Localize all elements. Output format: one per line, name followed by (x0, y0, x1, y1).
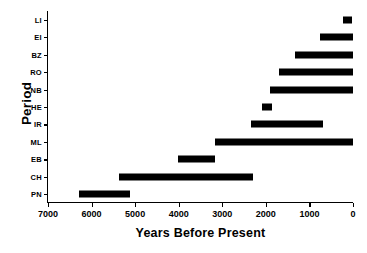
x-axis-label-6000: 6000 (82, 209, 102, 219)
y-axis-tick-li (44, 20, 48, 21)
x-axis-label-4000: 4000 (169, 209, 189, 219)
x-axis-label-2000: 2000 (256, 209, 276, 219)
bar-eb (178, 156, 215, 163)
x-axis-tick-0 (353, 203, 354, 207)
y-axis-label-bz: BZ (31, 50, 42, 59)
bar-he (262, 104, 272, 111)
x-axis-label-1000: 1000 (299, 209, 319, 219)
y-axis-label-ro: RO (30, 68, 42, 77)
x-axis-tick-7000 (48, 203, 49, 207)
y-axis-tick-nb (44, 90, 48, 91)
x-axis-tick-4000 (179, 203, 180, 207)
y-axis-label-ir: IR (34, 120, 42, 129)
y-axis-tick-ml (44, 142, 48, 143)
y-axis-label-ei: EI (34, 33, 42, 42)
x-axis-tick-2000 (266, 203, 267, 207)
x-axis-tick-6000 (92, 203, 93, 207)
x-axis-tick-5000 (135, 203, 136, 207)
bar-ro (279, 69, 353, 76)
x-axis-label-3000: 3000 (212, 209, 232, 219)
plot-area: LIEIBZRONBHEIRMLEBCHPN700060005000400030… (48, 11, 353, 203)
y-axis-tick-ch (44, 177, 48, 178)
y-axis-tick-eb (44, 159, 48, 160)
y-axis-label-ch: CH (31, 172, 42, 181)
bar-bz (295, 51, 353, 58)
x-axis-tick-1000 (309, 203, 310, 207)
y-axis-label-nb: NB (31, 85, 42, 94)
y-axis-label-ml: ML (31, 137, 42, 146)
bar-ml (215, 138, 353, 145)
x-axis-label-5000: 5000 (125, 209, 145, 219)
y-axis-tick-ro (44, 72, 48, 73)
y-axis-tick-ir (44, 124, 48, 125)
bar-nb (270, 86, 353, 93)
y-axis-label-pn: PN (31, 190, 42, 199)
bar-ei (320, 34, 353, 41)
x-axis-label-7000: 7000 (38, 209, 58, 219)
bar-ch (119, 173, 253, 180)
bar-ir (251, 121, 323, 128)
chart-root: Period LIEIBZRONBHEIRMLEBCHPN70006000500… (0, 0, 367, 253)
y-axis-tick-he (44, 107, 48, 108)
y-axis-label-he: HE (31, 103, 42, 112)
y-axis-label-li: LI (35, 15, 42, 24)
y-axis-tick-pn (44, 194, 48, 195)
bar-li (343, 16, 352, 23)
y-axis-label-eb: EB (31, 155, 42, 164)
x-axis-tick-3000 (222, 203, 223, 207)
bar-pn (79, 191, 130, 198)
y-axis-tick-ei (44, 37, 48, 38)
y-axis-tick-bz (44, 55, 48, 56)
x-axis-label-0: 0 (350, 209, 355, 219)
x-axis-title: Years Before Present (48, 226, 353, 240)
